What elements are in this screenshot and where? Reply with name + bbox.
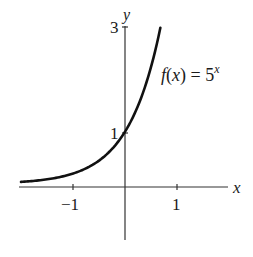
y-tick-label-1: 1 — [110, 124, 119, 143]
function-label: f(x) = 5x — [161, 62, 220, 86]
exponential-function-graph: 3 y 1 x −1 1 f(x) = 5x — [0, 0, 253, 257]
x-axis-label: x — [232, 178, 241, 197]
x-tick-label-neg1: −1 — [61, 195, 79, 214]
x-tick-label-1: 1 — [172, 195, 181, 214]
y-axis-label: y — [121, 6, 131, 24]
y-tick-label-3: 3 — [110, 18, 119, 37]
function-curve — [21, 28, 160, 182]
